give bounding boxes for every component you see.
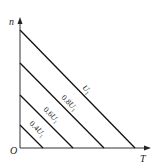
x-axis-arrow-icon xyxy=(144,146,151,151)
x-axis-label: T xyxy=(140,153,147,164)
line-label-3: 0.4U1 xyxy=(27,119,47,139)
y-axis-arrow-icon xyxy=(18,17,23,24)
origin-label: O xyxy=(10,145,17,156)
n-t-diagram: n O T U10.8U10.6U10.4U1 xyxy=(0,0,164,168)
line-1 xyxy=(20,63,104,148)
line-label-2: 0.6U1 xyxy=(41,105,61,125)
y-axis-label: n xyxy=(9,16,14,27)
line-label-1: 0.8U1 xyxy=(59,93,79,113)
